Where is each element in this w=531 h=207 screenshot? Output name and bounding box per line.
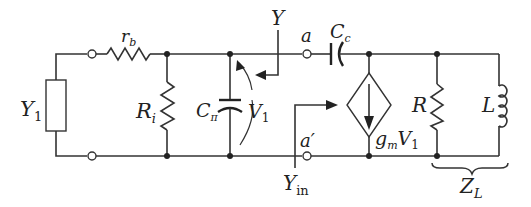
y1-admittance [46,54,87,156]
input-terminal-bottom [88,152,96,160]
cc-capacitor [311,42,499,66]
zl-brace [432,163,508,174]
label-y1: Y1 [20,97,42,124]
label-v1: V1 [248,100,269,125]
l-inductor [499,54,507,156]
label-l: L [481,93,495,117]
label-zl: ZL [459,174,483,201]
label-a-prime: a′ [300,130,315,151]
input-terminal-top [88,50,96,58]
label-rb: rb [121,26,136,49]
label-gmv1: gmV1 [375,127,419,152]
r-load-resistor [431,54,443,156]
y-admittance-arrow [255,30,278,80]
label-yin: Yin [283,171,309,198]
label-a: a [301,25,312,46]
label-y: Y [271,6,286,30]
label-cpi: Cπ [196,99,219,124]
rb-resistor [96,48,167,60]
terminal-a [303,50,311,58]
label-cc: Cc [330,20,351,45]
label-ri: Ri [135,99,156,126]
ri-resistor [161,54,174,156]
label-r: R [411,93,427,117]
circuit-diagram: Y1 rb Ri Cπ V1 Y [0,0,531,207]
terminal-a-prime [303,152,311,160]
